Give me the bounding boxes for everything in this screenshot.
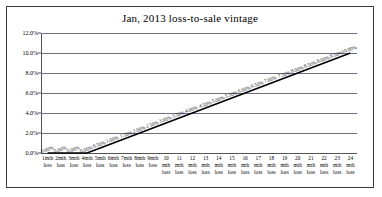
x-axis-tick-label-line: loss — [175, 169, 183, 176]
x-axis-tick-label-line: mth — [254, 162, 262, 169]
chart-title: Jan, 2013 loss-to-sale vintage — [7, 12, 373, 24]
x-axis-tick-label: 1mthloss — [42, 155, 53, 169]
x-axis-tick-label-line: loss — [134, 162, 145, 169]
x-axis-tick-label-line: mth — [320, 162, 328, 169]
x-axis-tick-label-line: loss — [307, 169, 315, 176]
x-axis-tick-label-line: mth — [201, 162, 209, 169]
x-axis-tick-label-line: 17 — [254, 155, 262, 162]
x-axis-tick-label-line: 4mth — [82, 155, 93, 162]
x-axis-tick-label: 2mthloss — [55, 155, 66, 169]
x-axis-tick-label-line: 1mth — [42, 155, 53, 162]
x-axis-tick-label: 3mthloss — [68, 155, 79, 169]
x-axis-tick-label-line: 20 — [294, 155, 302, 162]
y-axis-tick-label: 4.0% — [26, 110, 39, 116]
x-axis-tick-label-line: loss — [121, 162, 132, 169]
x-axis-tick-label: 20mthloss — [294, 155, 302, 177]
x-axis-tick-label: 21mthloss — [307, 155, 315, 177]
x-axis-tick-label-line: 10 — [162, 155, 170, 162]
x-axis-tick-label-line: mth — [346, 162, 354, 169]
x-axis-tick-label-line: loss — [42, 162, 53, 169]
x-axis-tick-label-line: mth — [162, 162, 170, 169]
x-axis-tick-label-line: 23 — [333, 155, 341, 162]
x-axis-tick-label-line: 21 — [307, 155, 315, 162]
x-axis-tick-label-line: mth — [228, 162, 236, 169]
x-axis-tick-label-line: loss — [188, 169, 196, 176]
x-axis-tick-label-line: loss — [320, 169, 328, 176]
x-axis-tick-label-line: 15 — [228, 155, 236, 162]
x-axis-tick-label-line: 7mth — [121, 155, 132, 162]
x-axis-tick-label: 24mthloss — [346, 155, 354, 177]
y-axis-tick-label: 0.0% — [26, 150, 39, 156]
y-axis-tick-label: 6.0% — [26, 90, 39, 96]
x-axis-tick-label-line: loss — [294, 169, 302, 176]
y-axis-tick-label: 8.0% — [26, 70, 39, 76]
x-axis-tick-label-line: loss — [267, 169, 275, 176]
x-axis-tick-label-line: loss — [254, 169, 262, 176]
x-axis-tick-label: 4mthloss — [82, 155, 93, 169]
x-axis-tick-label: 5mthloss — [95, 155, 106, 169]
x-axis-tick-label-line: loss — [68, 162, 79, 169]
x-axis-tick-label-line: 3mth — [68, 155, 79, 162]
x-axis-tick-label-line: mth — [267, 162, 275, 169]
x-axis-tick-label-line: mth — [280, 162, 288, 169]
x-axis-tick-label-line: 24 — [346, 155, 354, 162]
x-axis-tick-label: 6mthloss — [108, 155, 119, 169]
x-axis-tick-label: 7mthloss — [121, 155, 132, 169]
x-axis-tick-label-line: 12 — [188, 155, 196, 162]
x-axis-tick-label-line: mth — [215, 162, 223, 169]
x-axis-tick-label-line: loss — [55, 162, 66, 169]
x-axis-tick-label: 14mthloss — [215, 155, 223, 177]
line-series — [41, 33, 357, 153]
x-axis-tick-label-line: loss — [215, 169, 223, 176]
x-axis-tick-label-line: loss — [201, 169, 209, 176]
y-axis-tick-label: 2.0% — [26, 130, 39, 136]
x-axis-tick-label-line: loss — [241, 169, 249, 176]
x-axis-tick-label-line: mth — [294, 162, 302, 169]
x-axis-tick-label-line: loss — [346, 169, 354, 176]
x-axis-tick-label: 12mthloss — [188, 155, 196, 177]
x-axis-tick-label-line: 8mth — [134, 155, 145, 162]
x-axis-tick-label-line: 13 — [201, 155, 209, 162]
x-axis-tick-label: 8mthloss — [134, 155, 145, 169]
x-axis-tick-label: 15mthloss — [228, 155, 236, 177]
x-axis-tick-label-line: loss — [162, 169, 170, 176]
x-axis-tick-label: 17mthloss — [254, 155, 262, 177]
x-axis-tick-label-line: 18 — [267, 155, 275, 162]
x-axis-tick-label: 23mthloss — [333, 155, 341, 177]
x-axis-tick-label-line: loss — [228, 169, 236, 176]
x-axis-tick-label-line: 5mth — [95, 155, 106, 162]
x-axis-tick-label-line: loss — [280, 169, 288, 176]
x-axis-tick-label-line: 11 — [175, 155, 183, 162]
x-axis-tick-label: 18mthloss — [267, 155, 275, 177]
x-axis-tick-label-line: loss — [147, 162, 158, 169]
x-axis-tick-label-line: mth — [188, 162, 196, 169]
x-axis-tick-label: 10mthloss — [162, 155, 170, 177]
x-axis-tick-label: 11mthloss — [175, 155, 183, 177]
x-axis-tick-label-line: mth — [241, 162, 249, 169]
x-axis-tick-label-line: 22 — [320, 155, 328, 162]
x-axis-tick-label-line: 16 — [241, 155, 249, 162]
x-axis-tick-label-line: 6mth — [108, 155, 119, 162]
x-axis-tick-label-line: 14 — [215, 155, 223, 162]
x-axis-tick-label-line: mth — [175, 162, 183, 169]
x-axis-tick-label: 9mthloss — [147, 155, 158, 169]
x-axis-tick-label-line: mth — [307, 162, 315, 169]
plot-area: 0.0%2.0%4.0%6.0%8.0%10.0%12.0% 0.00%0.00… — [41, 33, 357, 153]
x-axis-tick-label: 13mthloss — [201, 155, 209, 177]
x-axis-tick-label: 16mthloss — [241, 155, 249, 177]
x-axis-tick-label-line: 2mth — [55, 155, 66, 162]
x-axis-tick-label: 22mthloss — [320, 155, 328, 177]
x-axis-tick-label-line: 9mth — [147, 155, 158, 162]
x-axis-tick-label-line: mth — [333, 162, 341, 169]
x-axis-tick-label-line: loss — [82, 162, 93, 169]
x-axis-tick-label-line: loss — [333, 169, 341, 176]
y-axis-tick-label: 12.0% — [23, 30, 39, 36]
x-axis-labels: 1mthloss2mthloss3mthloss4mthloss5mthloss… — [41, 155, 357, 197]
x-axis-tick-label-line: loss — [108, 162, 119, 169]
y-axis-tick-label: 10.0% — [23, 50, 39, 56]
x-axis-tick-label: 19mthloss — [280, 155, 288, 177]
x-axis-tick-label-line: loss — [95, 162, 106, 169]
chart-container: Jan, 2013 loss-to-sale vintage 0.0%2.0%4… — [6, 6, 374, 188]
x-axis-tick-label-line: 19 — [280, 155, 288, 162]
